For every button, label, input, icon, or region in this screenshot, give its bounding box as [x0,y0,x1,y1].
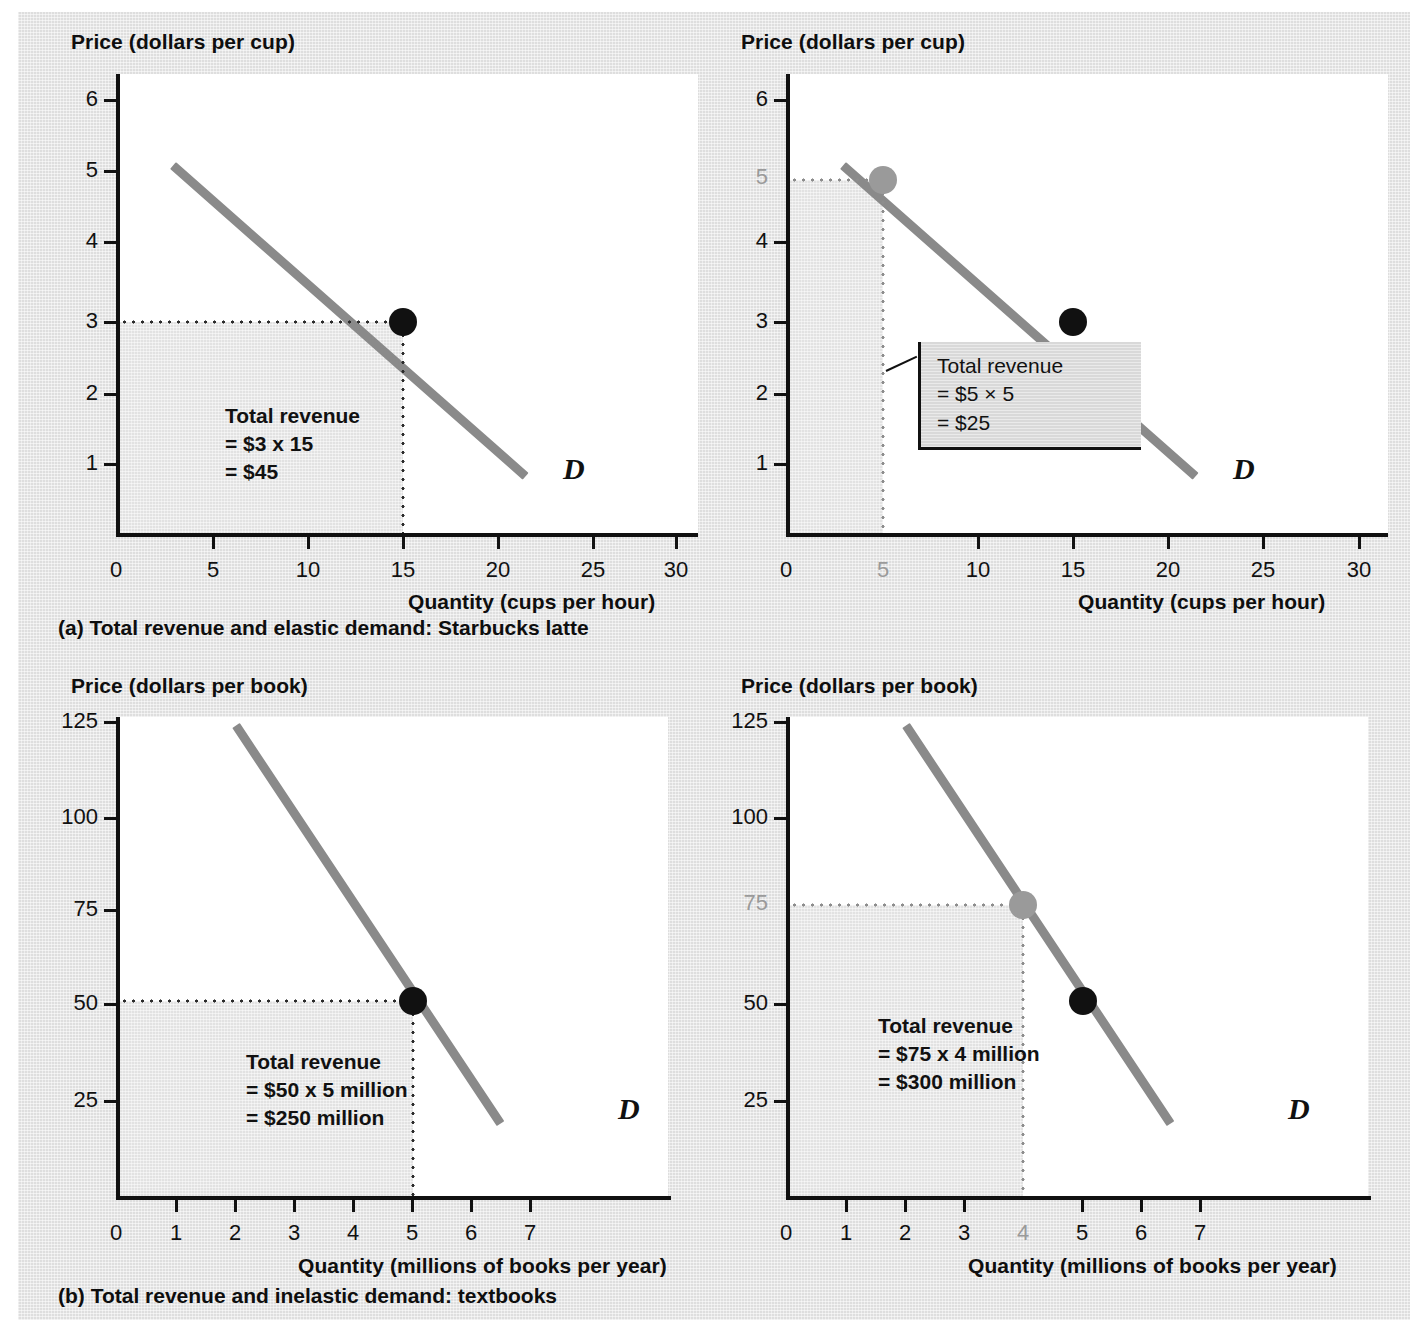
y-tick-4 [774,241,788,244]
y-axis-line [786,717,790,1198]
x-axis-title: Quantity (cups per hour) [408,590,655,614]
y-tick-label-2: 2 [58,380,98,406]
x-tick-15 [1072,535,1075,549]
y-tick-label-1: 1 [728,450,768,476]
x-tick-2 [904,1198,907,1212]
price-guide-line [120,999,413,1003]
y-tick-125 [104,721,118,724]
y-tick-100 [104,817,118,820]
demand-curve-label: D [618,1092,640,1126]
x-tick-label-4: 4 [333,1220,373,1246]
x-axis-line [116,1196,671,1200]
figure-container: Price (dollars per cup) D Total revenue … [18,12,1410,1320]
x-tick-label-2: 2 [885,1220,925,1246]
revenue-rectangle [789,180,883,535]
x-tick-label-15: 15 [383,557,423,583]
x-tick-10 [307,535,310,549]
x-tick-10 [977,535,980,549]
y-tick-label-100: 100 [698,804,768,830]
x-tick-label-5: 5 [1062,1220,1102,1246]
x-tick-label-1: 1 [826,1220,866,1246]
x-tick-5 [411,1198,414,1212]
y-tick-6 [104,99,118,102]
x-tick-label-1: 1 [156,1220,196,1246]
chart-panel-a-right: Price (dollars per cup) D Total revenue … [718,12,1408,632]
y-tick-label-6: 6 [728,86,768,112]
x-axis-line [786,1196,1371,1200]
y-tick-label-4: 4 [58,228,98,254]
quantity-guide-line [411,1001,415,1197]
y-tick-label-5-highlight: 5 [728,164,768,190]
y-tick-1 [774,463,788,466]
y-tick-4 [104,241,118,244]
x-tick-3 [963,1198,966,1212]
x-tick-7 [1199,1198,1202,1212]
y-tick-50 [774,1003,788,1006]
y-tick-25 [104,1100,118,1103]
y-tick-3 [104,321,118,324]
revenue-annotation: Total revenue = $50 x 5 million = $250 m… [246,1048,408,1132]
x-tick-7 [529,1198,532,1212]
revenue-callout: Total revenue = $5 × 5 = $25 [918,342,1141,450]
y-axis-title: Price (dollars per cup) [741,30,965,54]
y-tick-125 [774,721,788,724]
x-tick-20 [1167,535,1170,549]
demand-curve-label: D [563,452,585,486]
x-tick-6 [470,1198,473,1212]
y-tick-75 [104,909,118,912]
x-tick-label-5: 5 [392,1220,432,1246]
y-axis-line [116,717,120,1198]
y-tick-6 [774,99,788,102]
y-tick-label-75-highlight: 75 [698,890,768,916]
x-tick-label-30: 30 [1339,557,1379,583]
y-tick-label-125: 125 [698,708,768,734]
x-tick-15 [402,535,405,549]
x-axis-line [786,533,1388,537]
x-tick-label-6: 6 [451,1220,491,1246]
y-tick-label-4: 4 [728,228,768,254]
x-tick-label-0: 0 [96,557,136,583]
y-tick-label-25: 25 [698,1087,768,1113]
y-axis-title: Price (dollars per book) [71,674,308,698]
y-tick-100 [774,817,788,820]
x-tick-label-6: 6 [1121,1220,1161,1246]
y-tick-label-100: 100 [28,804,98,830]
x-tick-label-5: 5 [193,557,233,583]
equilibrium-point [399,987,427,1015]
x-tick-1 [175,1198,178,1212]
x-tick-label-4-highlight: 4 [1003,1220,1043,1246]
highlight-point [869,166,897,194]
y-tick-label-125: 125 [28,708,98,734]
y-tick-1 [104,463,118,466]
x-tick-label-30: 30 [656,557,696,583]
y-axis-title: Price (dollars per cup) [71,30,295,54]
equilibrium-point [1069,987,1097,1015]
caption-panel-b: (b) Total revenue and inelastic demand: … [58,1284,557,1308]
chart-panel-a-left: Price (dollars per cup) D Total revenue … [18,12,698,632]
x-tick-2 [234,1198,237,1212]
x-tick-label-0: 0 [96,1220,136,1246]
y-tick-label-6: 6 [58,86,98,112]
x-tick-label-25: 25 [573,557,613,583]
y-tick-label-50: 50 [698,990,768,1016]
price-guide-line [120,320,403,324]
x-axis-line [116,533,698,537]
x-tick-3 [293,1198,296,1212]
x-tick-label-3: 3 [944,1220,984,1246]
x-tick-25 [1262,535,1265,549]
x-axis-title: Quantity (millions of books per year) [298,1254,667,1278]
x-axis-title: Quantity (cups per hour) [1078,590,1325,614]
demand-curve-label: D [1288,1092,1310,1126]
x-tick-label-2: 2 [215,1220,255,1246]
y-tick-label-5: 5 [58,157,98,183]
x-tick-label-3: 3 [274,1220,314,1246]
x-tick-label-20: 20 [1148,557,1188,583]
y-tick-5 [104,170,118,173]
y-tick-25 [774,1100,788,1103]
x-axis-title: Quantity (millions of books per year) [968,1254,1337,1278]
revenue-annotation: Total revenue = $75 x 4 million = $300 m… [878,1012,1040,1096]
y-tick-2 [774,393,788,396]
equilibrium-point [1059,308,1087,336]
x-tick-label-7: 7 [510,1220,550,1246]
y-tick-label-3: 3 [728,308,768,334]
